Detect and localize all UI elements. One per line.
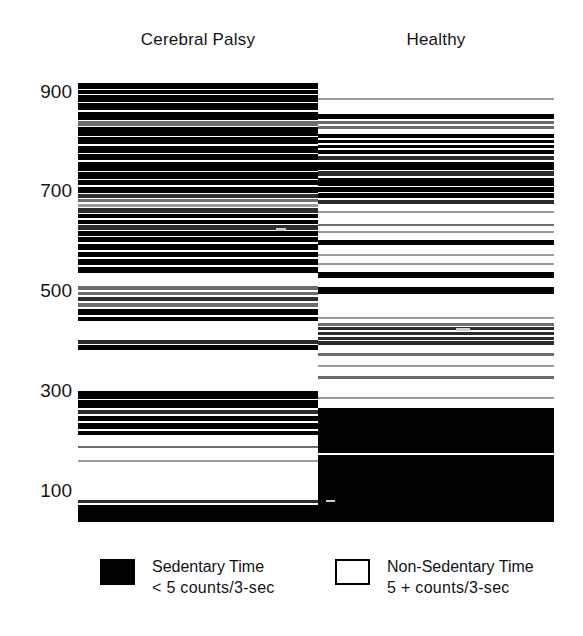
- heatmap-band: [78, 162, 318, 171]
- legend: Sedentary Time < 5 counts/3-sec Non-Sede…: [0, 556, 583, 618]
- heatmap-band: [78, 297, 318, 302]
- heatmap-band: [78, 317, 318, 322]
- heatmap-band: [78, 460, 318, 462]
- heatmap-band: [78, 112, 318, 120]
- heatmap-band: [78, 252, 318, 258]
- heatmap-band: [318, 178, 554, 186]
- heatmap-band: [318, 134, 554, 138]
- y-tick-900: 900: [2, 82, 72, 101]
- heatmap-band: [318, 240, 554, 246]
- heatmap-band: [318, 224, 554, 226]
- heatmap-band: [78, 345, 318, 350]
- heatmap-band: [318, 140, 554, 144]
- heatmap-band: [318, 455, 554, 522]
- heatmap-band: [78, 431, 318, 436]
- heatmap-band: [318, 337, 554, 340]
- heatmap-band: [318, 272, 554, 278]
- heatmap-band: [78, 199, 318, 202]
- heatmap-band: [78, 244, 318, 251]
- heatmap-band: [78, 416, 318, 422]
- heatmap-band: [318, 114, 554, 119]
- heatmap-band: [318, 156, 554, 160]
- heatmap-band: [78, 410, 318, 415]
- legend-non-sedentary-sublabel: 5 + counts/3-sec: [387, 577, 534, 598]
- heatmap-band: [318, 171, 554, 176]
- legend-non-sedentary-text: Non-Sedentary Time 5 + counts/3-sec: [387, 556, 534, 598]
- y-tick-100: 100: [2, 481, 72, 500]
- heatmap-band: [78, 172, 318, 179]
- column-title-cerebral-palsy: Cerebral Palsy: [78, 30, 318, 50]
- heatmap-band: [78, 137, 318, 144]
- y-axis: 900 700 500 300 100: [0, 80, 72, 523]
- heatmap-band: [318, 150, 554, 154]
- heatmap-band: [318, 353, 554, 356]
- heatmap-band: [78, 204, 318, 207]
- heatmap-band: [318, 162, 554, 170]
- heatmap-band: [318, 254, 554, 256]
- heatmap-band: [78, 309, 318, 315]
- heatmap-band: [318, 231, 554, 233]
- heatmap-band: [78, 340, 318, 344]
- heatmap-band: [78, 286, 318, 290]
- legend-sedentary-label: Sedentary Time: [152, 558, 264, 575]
- heatmap-band: [78, 154, 318, 160]
- heatmap-band: [78, 292, 318, 296]
- y-tick-700: 700: [2, 181, 72, 200]
- scan-speck: [456, 328, 470, 331]
- heatmap-band: [78, 220, 318, 224]
- y-tick-500: 500: [2, 281, 72, 300]
- heatmap-band: [78, 208, 318, 213]
- scan-speck: [326, 500, 335, 502]
- heatmap-band: [318, 145, 554, 149]
- heatmap-band: [78, 103, 318, 110]
- heatmap-band: [318, 121, 554, 125]
- heatmap-band: [78, 259, 318, 266]
- column-title-healthy: Healthy: [318, 30, 554, 50]
- legend-sedentary-sublabel: < 5 counts/3-sec: [152, 577, 275, 598]
- heatmap-band: [78, 391, 318, 399]
- heatmap-band: [318, 187, 554, 192]
- heatmap-band: [78, 423, 318, 429]
- heatmap-band: [78, 303, 318, 307]
- panel-cerebral-palsy: [78, 80, 318, 523]
- heatmap-band: [318, 332, 554, 336]
- heatmap-band: [78, 180, 318, 185]
- heatmap-band: [318, 263, 554, 265]
- heatmap-band: [78, 187, 318, 193]
- heatmap-band: [318, 408, 554, 452]
- panel-healthy: [318, 80, 554, 523]
- scan-speck: [276, 228, 286, 231]
- heatmap-band: [78, 95, 318, 103]
- sedentary-swatch-icon: [100, 559, 135, 585]
- legend-sedentary-text: Sedentary Time < 5 counts/3-sec: [152, 556, 275, 598]
- heatmap-band: [78, 194, 318, 198]
- heatmap-band: [78, 121, 318, 126]
- heatmap-band: [318, 126, 554, 129]
- heatmap-band: [78, 446, 318, 448]
- heatmap-band: [318, 341, 554, 345]
- heatmap-band: [318, 200, 554, 205]
- heatmap-band: [78, 237, 318, 242]
- heatmap-band: [78, 127, 318, 137]
- heatmap-band: [78, 500, 318, 503]
- heatmap-band: [318, 193, 554, 198]
- heatmap-band: [78, 400, 318, 408]
- heatmap-band: [318, 323, 554, 326]
- heatmap-band: [78, 90, 318, 94]
- plot-area: [78, 80, 554, 523]
- heatmap-band: [318, 287, 554, 294]
- heatmap-band: [78, 83, 318, 90]
- heatmap-band: [318, 98, 554, 100]
- heatmap-band: [78, 267, 318, 274]
- heatmap-band: [78, 505, 318, 522]
- legend-non-sedentary-label: Non-Sedentary Time: [387, 558, 534, 575]
- heatmap-band: [318, 376, 554, 379]
- heatmap-band: [318, 365, 554, 368]
- heatmap-band: [318, 327, 554, 330]
- heatmap-band: [78, 214, 318, 218]
- heatmap-band: [318, 397, 554, 399]
- heatmap-band: [78, 146, 318, 153]
- y-tick-300: 300: [2, 381, 72, 400]
- heatmap-band: [318, 211, 554, 213]
- heatmap-band: [318, 317, 554, 319]
